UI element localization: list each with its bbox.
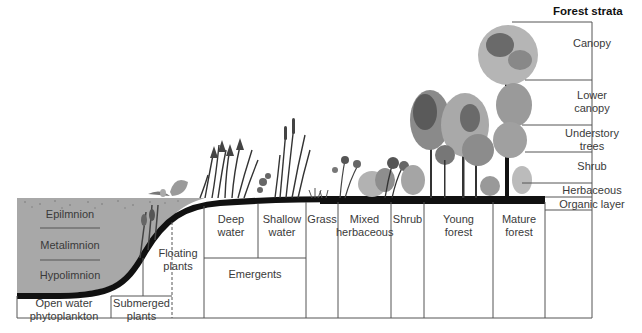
emergent-reeds	[200, 125, 310, 198]
forest-strata-title: Forest strata	[553, 5, 623, 17]
stratum-shrub: Shrub	[545, 160, 639, 173]
lake-layer-metalimnion: Metalimnion	[28, 239, 112, 252]
zone-shrub: Shrub	[391, 213, 424, 226]
lake-layer-epilimnion: Epilmnion	[30, 208, 110, 221]
zone-deep-water: Deep water	[204, 213, 258, 239]
stratum-lower-canopy: Lower canopy	[545, 89, 639, 115]
stratum-canopy: Canopy	[545, 37, 639, 50]
reed-flowerheads	[210, 118, 295, 158]
floating-plants	[148, 180, 188, 197]
zone-submerged-plants: Submerged plants	[111, 297, 172, 323]
zone-floating-plants: Floating plants	[148, 247, 208, 273]
zone-open-water: Open water phytoplankton	[17, 297, 111, 323]
zone-mature-forest: Mature forest	[493, 213, 545, 239]
flowering-herbs	[257, 173, 271, 193]
stratum-herbaceous: Herbaceous	[545, 184, 639, 197]
zone-shallow-water: Shallow water	[258, 213, 306, 239]
lake-layer-hypolimnion: Hypolimnion	[28, 269, 112, 282]
zone-grass: Grass	[306, 213, 338, 226]
stratum-understory-trees: Understory trees	[545, 127, 639, 153]
zone-young-forest: Young forest	[424, 213, 493, 239]
stratum-organic-layer: Organic layer	[545, 198, 639, 211]
zone-emergents: Emergents	[204, 268, 306, 281]
zone-mixed-herbaceous: Mixed herbaceous	[336, 213, 393, 239]
